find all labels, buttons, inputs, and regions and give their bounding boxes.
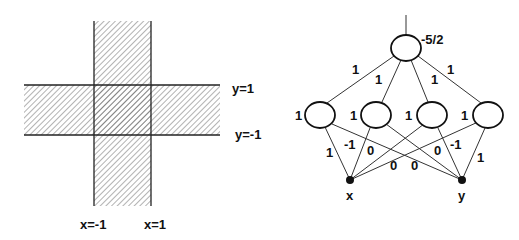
label-x-pos1: x=1 bbox=[144, 217, 166, 232]
label-y-pos1: y=1 bbox=[232, 81, 254, 96]
hidden-node-3 bbox=[417, 102, 447, 128]
bias-h4: 1 bbox=[461, 108, 468, 123]
weight-y-h4: 1 bbox=[477, 150, 484, 165]
neural-network: -5/2 1 1 1 1 1 1 1 1 1 -1 0 0 0 0 -1 1 x… bbox=[295, 15, 503, 203]
edge-y-h3 bbox=[438, 128, 462, 180]
hidden-node-2 bbox=[361, 102, 391, 128]
weight-out-h4: 1 bbox=[447, 62, 454, 77]
hidden-node-4 bbox=[473, 102, 503, 128]
bias-h2: 1 bbox=[350, 108, 357, 123]
weight-y-h3: -1 bbox=[450, 137, 462, 152]
region-diagram: y=1 y=-1 x=-1 x=1 bbox=[24, 21, 261, 232]
weight-y-h1: 0 bbox=[411, 158, 418, 173]
weight-x-h3: 0 bbox=[367, 143, 374, 158]
weight-x-h2: -1 bbox=[344, 137, 356, 152]
horizontal-band-fill bbox=[24, 85, 220, 135]
output-bias-label: -5/2 bbox=[421, 32, 443, 47]
input-node-x bbox=[346, 176, 354, 184]
edge-out-h1 bbox=[327, 56, 394, 103]
weight-out-h2: 1 bbox=[375, 72, 382, 87]
input-label-y: y bbox=[458, 188, 466, 203]
edge-out-h2 bbox=[382, 60, 401, 102]
weight-x-h4: 0 bbox=[390, 158, 397, 173]
label-x-neg1: x=-1 bbox=[80, 217, 106, 232]
output-node bbox=[391, 35, 421, 61]
figure: y=1 y=-1 x=-1 x=1 -5/2 1 1 1 1 bbox=[0, 0, 519, 240]
weight-x-h1: 1 bbox=[326, 145, 333, 160]
input-node-y bbox=[458, 176, 466, 184]
label-y-neg1: y=-1 bbox=[235, 127, 261, 142]
weight-out-h3: 1 bbox=[431, 72, 438, 87]
bias-h1: 1 bbox=[295, 108, 302, 123]
edge-out-h3 bbox=[411, 60, 428, 102]
weight-y-h2: 0 bbox=[434, 143, 441, 158]
input-label-x: x bbox=[346, 188, 354, 203]
bias-h3: 1 bbox=[405, 108, 412, 123]
hidden-node-1 bbox=[305, 102, 335, 128]
weight-out-h1: 1 bbox=[352, 62, 359, 77]
